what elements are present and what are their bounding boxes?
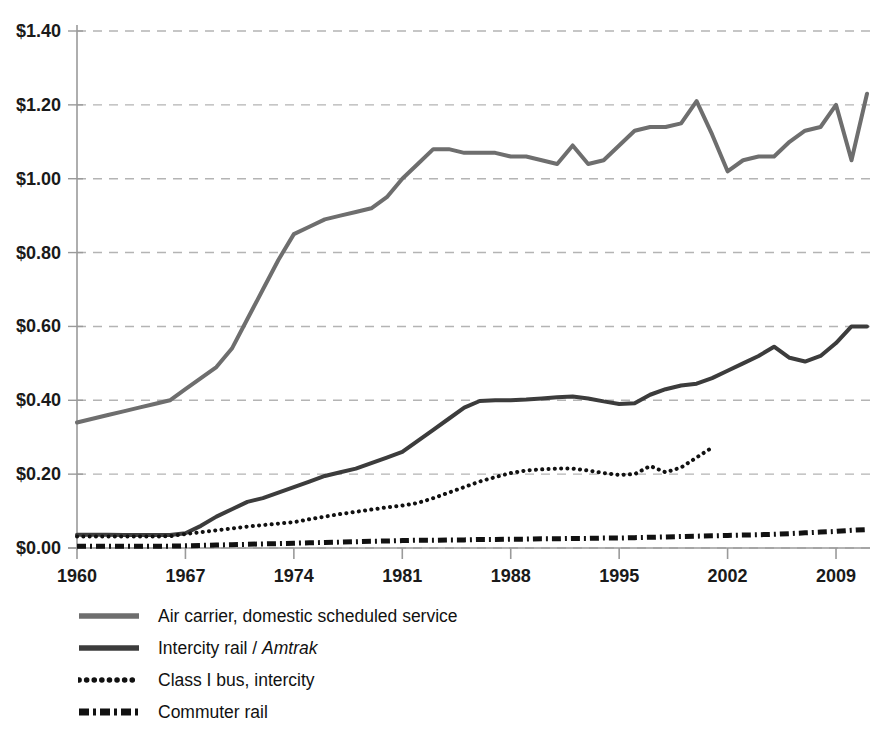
- air-carrier-swatch: [78, 609, 140, 623]
- x-axis-tick-label: 1981: [382, 566, 422, 586]
- x-axis-tick-label: 1974: [274, 566, 314, 586]
- class-i-bus-swatch: [78, 673, 140, 687]
- legend-item[interactable]: Commuter rail: [78, 696, 638, 728]
- y-axis-tick-label: $1.00: [16, 169, 61, 189]
- y-axis-tick-label: $0.80: [16, 243, 61, 263]
- series-group: [77, 94, 867, 546]
- x-axis-tick-label: 1967: [165, 566, 205, 586]
- commuter-rail-swatch: [78, 705, 140, 719]
- legend-item-label-italic: Amtrak: [262, 638, 317, 658]
- y-axis-tick-label: $0.40: [16, 390, 61, 410]
- y-axis-tick-label: $1.20: [16, 95, 61, 115]
- series-line-class-i-bus-intercity: [77, 448, 712, 537]
- legend-item[interactable]: Intercity rail / Amtrak: [78, 632, 638, 664]
- intercity-rail-swatch: [78, 641, 140, 655]
- legend-item-label: Commuter rail: [158, 702, 268, 723]
- x-axis-tick-label: 1988: [491, 566, 531, 586]
- y-axis-tick-label: $1.40: [16, 21, 61, 41]
- x-axis-tick-label: 1995: [599, 566, 639, 586]
- legend-item-label: Intercity rail / Amtrak: [158, 638, 318, 659]
- x-axis-tick-label: 2009: [816, 566, 856, 586]
- gridlines: $1.40$1.20$1.00$0.80$0.60$0.40$0.20$0.00: [16, 21, 870, 558]
- legend-item[interactable]: Air carrier, domestic scheduled service: [78, 600, 638, 632]
- chart-legend: Air carrier, domestic scheduled serviceI…: [78, 600, 638, 728]
- x-axis-ticks: 19601967197419811988199520022009: [57, 548, 856, 586]
- series-line-air-carrier-domestic-scheduled-service: [77, 94, 867, 423]
- axes: [68, 25, 870, 550]
- x-axis-tick-label: 2002: [708, 566, 748, 586]
- chart-figure: $1.40$1.20$1.00$0.80$0.60$0.40$0.20$0.00…: [0, 0, 878, 745]
- y-axis-tick-label: $0.00: [16, 538, 61, 558]
- legend-item-label: Air carrier, domestic scheduled service: [158, 606, 458, 627]
- y-axis-tick-label: $0.20: [16, 464, 61, 484]
- y-axis-tick-label: $0.60: [16, 316, 61, 336]
- legend-item[interactable]: Class I bus, intercity: [78, 664, 638, 696]
- legend-item-label: Class I bus, intercity: [158, 670, 315, 691]
- x-axis-tick-label: 1960: [57, 566, 97, 586]
- series-line-intercity-rail-amtrak: [77, 326, 867, 535]
